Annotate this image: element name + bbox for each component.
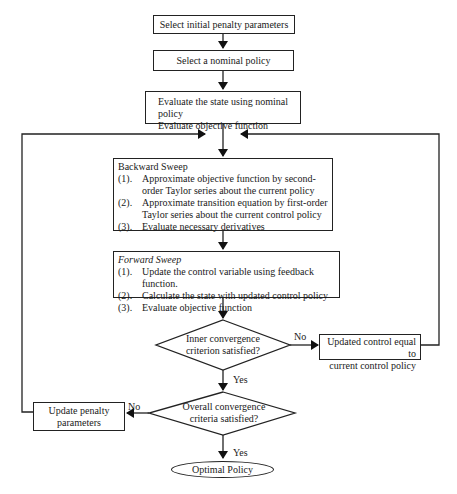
evaluate-box: Evaluate the state using nominal policy … <box>145 91 301 124</box>
update-control-box: Updated control equal to current control… <box>319 334 421 360</box>
backward-sweep-box: Backward Sweep (1). Approximate objectiv… <box>113 158 333 231</box>
update-penalty-box: Update penalty parameters <box>33 402 125 431</box>
backward-step-3: (3). Evaluate necessary derivatives <box>118 221 328 233</box>
backward-step-2: (2). Approximate transition equation by … <box>118 197 328 221</box>
nominal-policy-box: Select a nominal policy <box>153 50 294 71</box>
backward-sweep-title: Backward Sweep <box>118 161 328 173</box>
start-box: Select initial penalty parameters <box>153 15 295 34</box>
evaluate-line-1: Evaluate the state using nominal policy <box>158 96 300 120</box>
forward-step-1: (1). Update the control variable using f… <box>118 266 335 290</box>
forward-step-3: (3). Evaluate objective function <box>118 302 335 314</box>
forward-sweep-box: Forward Sweep (1). Update the control va… <box>113 251 340 298</box>
overall-yes-label: Yes <box>233 447 248 459</box>
backward-step-1: (1). Approximate objective function by s… <box>118 173 328 197</box>
inner-yes-label: Yes <box>233 374 248 386</box>
forward-sweep-title: Forward Sweep <box>118 254 335 266</box>
optimal-policy-terminal: Optimal Policy <box>171 461 274 478</box>
inner-decision-text: Inner convergence criterion satisfied? <box>168 333 278 357</box>
inner-no-label: No <box>294 331 306 343</box>
evaluate-line-2: Evaluate objective function <box>158 120 300 132</box>
nominal-policy-text: Select a nominal policy <box>176 55 270 67</box>
start-text: Select initial penalty parameters <box>160 19 289 31</box>
overall-decision-text: Overall convergence criteria satisfied? <box>168 401 280 425</box>
overall-no-label: No <box>128 401 140 413</box>
forward-step-2: (2). Calculate the state with updated co… <box>118 290 335 302</box>
